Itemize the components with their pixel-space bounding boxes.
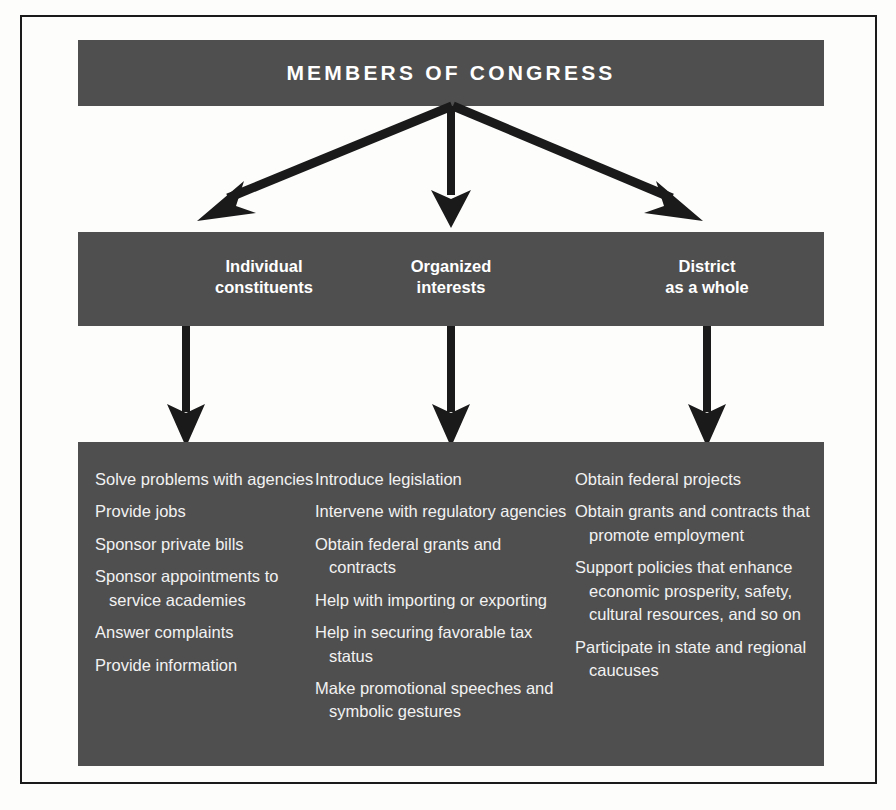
- list-item: Help with importing or exporting: [315, 589, 567, 612]
- constituent-services-list: Solve problems with agencies Provide job…: [95, 468, 323, 686]
- category-label-line2: constituents: [215, 277, 313, 298]
- list-item: Make promotional speeches and symbolic g…: [315, 677, 567, 724]
- list-item: Introduce legislation: [315, 468, 567, 491]
- category-district-as-a-whole: District as a whole: [665, 256, 748, 298]
- figure-root: MEMBERS OF CONGRESS: [0, 0, 896, 810]
- page-title: MEMBERS OF CONGRESS: [286, 61, 615, 85]
- list-item: Solve problems with agencies: [95, 468, 323, 491]
- list-item: Obtain federal projects: [575, 468, 823, 491]
- list-item: Provide information: [95, 654, 323, 677]
- list-item: Sponsor private bills: [95, 533, 323, 556]
- list-item: Help in securing favorable tax status: [315, 621, 567, 668]
- list-item: Provide jobs: [95, 500, 323, 523]
- category-label-line2: interests: [411, 277, 492, 298]
- members-of-congress-band: MEMBERS OF CONGRESS: [78, 40, 824, 106]
- organized-interest-services-list: Introduce legislation Intervene with reg…: [315, 468, 567, 733]
- list-item: Sponsor appointments to service academie…: [95, 565, 323, 612]
- district-services-list: Obtain federal projects Obtain grants an…: [575, 468, 823, 691]
- list-item: Answer complaints: [95, 621, 323, 644]
- audience-categories-band: Individual constituents Organized intere…: [78, 232, 824, 326]
- list-item: Obtain federal grants and contracts: [315, 533, 567, 580]
- list-item: Support policies that enhance economic p…: [575, 556, 823, 626]
- list-item: Participate in state and regional caucus…: [575, 636, 823, 683]
- list-item: Intervene with regulatory agencies: [315, 500, 567, 523]
- category-label-line2: as a whole: [665, 277, 748, 298]
- services-band: Solve problems with agencies Provide job…: [78, 442, 824, 766]
- category-organized-interests: Organized interests: [411, 256, 492, 298]
- category-individual-constituents: Individual constituents: [215, 256, 313, 298]
- category-label-line1: Individual: [215, 256, 313, 277]
- list-item: Obtain grants and contracts that promote…: [575, 500, 823, 547]
- category-label-line1: Organized: [411, 256, 492, 277]
- category-label-line1: District: [665, 256, 748, 277]
